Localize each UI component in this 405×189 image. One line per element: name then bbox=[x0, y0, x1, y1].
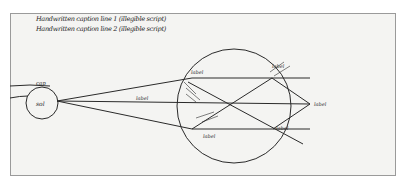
label-top-left: label bbox=[191, 69, 204, 75]
ray-bottom bbox=[57, 101, 192, 129]
ray-center bbox=[57, 101, 310, 104]
label-right-apex: label bbox=[314, 101, 327, 107]
left-mid-line bbox=[10, 96, 28, 98]
optics-diagram: sol cap label label label label label la… bbox=[0, 0, 405, 189]
label-lower-left: label bbox=[203, 133, 216, 139]
label-top-right: label bbox=[272, 63, 285, 69]
small-circle-top-label: cap bbox=[36, 80, 46, 87]
ray-top bbox=[57, 78, 192, 101]
label-middle-left: label bbox=[136, 95, 149, 101]
small-circle-label: sol bbox=[36, 100, 45, 107]
label-lower-right: label bbox=[276, 125, 289, 131]
